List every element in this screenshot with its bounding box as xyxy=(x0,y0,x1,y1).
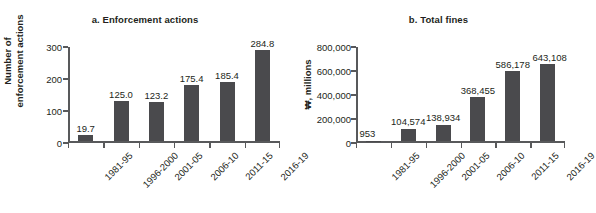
bar-a-2 xyxy=(149,102,164,141)
x-tick-a-5 xyxy=(245,143,246,148)
panel-a-title: a. Enforcement actions xyxy=(0,14,290,25)
panel-b-y-tick-labels: 0200,000400,000600,000800,000 xyxy=(300,47,351,143)
bar-a-5 xyxy=(255,50,270,141)
panel-b-plot-area: 9531981-95104,5741996-2000138,9342001-05… xyxy=(356,47,565,143)
y-tick-label-b-4: 800,000 xyxy=(317,42,351,53)
bar-value-a-4: 185.4 xyxy=(215,70,239,81)
y-tick-a-1 xyxy=(63,110,68,111)
y-tick-label-b-2: 400,000 xyxy=(317,90,351,101)
bar-b-1 xyxy=(401,129,416,142)
y-tick-a-2 xyxy=(63,78,68,79)
bar-b-3 xyxy=(470,97,485,141)
bar-a-1 xyxy=(114,101,129,141)
x-tick-a-2 xyxy=(139,143,140,148)
x-tick-a-4 xyxy=(209,143,210,148)
y-tick-b-2 xyxy=(351,94,356,95)
bar-b-0 xyxy=(366,141,381,142)
bar-value-a-0: 19.7 xyxy=(76,123,95,134)
y-tick-a-3 xyxy=(63,46,68,47)
x-tick-b-2 xyxy=(426,143,427,148)
bar-value-b-1: 104,574 xyxy=(391,116,425,127)
bar-value-a-3: 175.4 xyxy=(180,73,204,84)
y-tick-b-3 xyxy=(351,70,356,71)
bar-value-b-4: 586,178 xyxy=(496,59,530,70)
y-tick-b-1 xyxy=(351,118,356,119)
y-tick-label-a-3: 300 xyxy=(46,42,62,53)
bar-b-5 xyxy=(540,64,555,141)
panel-a-y-axis-line xyxy=(68,47,70,143)
x-tick-b-4 xyxy=(495,143,496,148)
y-tick-label-a-2: 200 xyxy=(46,74,62,85)
bar-a-4 xyxy=(220,82,235,141)
x-category-label-a-4: 2011-15 xyxy=(243,150,275,182)
bar-value-b-5: 643,108 xyxy=(532,52,566,63)
y-tick-label-a-0: 0 xyxy=(57,138,62,149)
bar-value-b-0: 953 xyxy=(359,128,375,139)
panel-a-plot-area: 19.71981-95125.01996-2000123.22001-05175… xyxy=(68,47,280,143)
x-tick-a-1 xyxy=(103,143,104,148)
bar-b-2 xyxy=(436,125,451,142)
x-tick-a-6 xyxy=(279,143,280,148)
panel-b-y-axis-line xyxy=(356,47,358,143)
x-tick-b-3 xyxy=(461,143,462,148)
bar-a-0 xyxy=(78,135,93,141)
bar-b-4 xyxy=(505,71,520,141)
x-category-label-a-0: 1981-95 xyxy=(102,150,134,182)
x-tick-a-3 xyxy=(174,143,175,148)
panel-a-y-tick-labels: 0100200300 xyxy=(30,47,62,143)
panel-b-title: b. Total fines xyxy=(290,14,579,25)
x-category-label-a-3: 2006-10 xyxy=(208,150,240,182)
x-category-label-a-1: 1996-2000 xyxy=(140,150,180,190)
bar-value-a-2: 123.2 xyxy=(144,90,168,101)
x-tick-b-1 xyxy=(391,143,392,148)
y-tick-label-b-3: 600,000 xyxy=(317,66,351,77)
bar-value-b-3: 368,455 xyxy=(461,85,495,96)
bar-value-a-1: 125.0 xyxy=(109,89,133,100)
y-tick-b-4 xyxy=(351,46,356,47)
bar-value-a-5: 284.8 xyxy=(250,38,274,49)
x-tick-b-5 xyxy=(530,143,531,148)
bar-a-3 xyxy=(184,85,199,141)
x-tick-b-0 xyxy=(356,143,357,148)
x-tick-b-6 xyxy=(564,143,565,148)
x-tick-a-0 xyxy=(68,143,69,148)
y-tick-label-a-1: 100 xyxy=(46,106,62,117)
chart-panel-enforcement-actions: a. Enforcement actions Number of enforce… xyxy=(0,0,290,213)
bar-value-b-2: 138,934 xyxy=(426,112,460,123)
panel-a-y-axis-title: Number of enforcement actions xyxy=(2,13,28,109)
y-tick-label-b-1: 200,000 xyxy=(317,114,351,125)
